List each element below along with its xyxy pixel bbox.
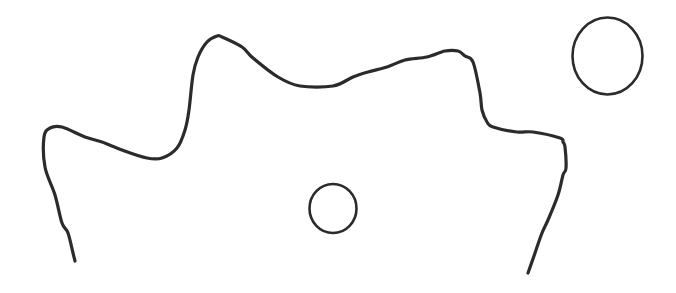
line-drawing-canvas	[0, 0, 676, 293]
